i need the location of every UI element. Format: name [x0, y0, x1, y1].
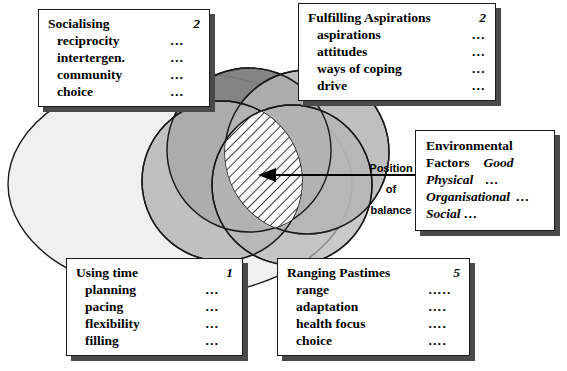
item-label: ways of coping [317, 60, 402, 77]
item-dots: …. [418, 332, 460, 349]
item-label: pacing [85, 298, 123, 315]
list-item: intertergen. … [48, 49, 200, 66]
list-item: Physical … [426, 171, 546, 188]
item-dots: … [516, 188, 530, 205]
item-label: flexibility [85, 315, 140, 332]
item-dots: … [485, 171, 499, 188]
environmental-rating: Good [483, 154, 513, 171]
callout-fulfilling-aspirations: Fulfilling Aspirations 2 aspirations … a… [298, 3, 496, 101]
list-item: drive … [308, 77, 486, 94]
item-dots: … [160, 83, 200, 100]
environmental-title-rest: Factors [426, 154, 469, 171]
aspirations-header: Fulfilling Aspirations 2 [308, 9, 486, 26]
item-dots: ….. [418, 281, 460, 298]
item-label: choice [296, 332, 332, 349]
socialising-items: reciprocity … intertergen. … community …… [48, 32, 200, 100]
list-item: attitudes … [308, 43, 486, 60]
diagram-canvas: Position of balance Socialising 2 recipr… [0, 0, 567, 371]
item-dots: … [160, 66, 200, 83]
item-label: aspirations [317, 26, 381, 43]
callout-socialising: Socialising 2 reciprocity … intertergen.… [38, 9, 210, 107]
aspirations-number: 2 [467, 9, 486, 26]
list-item: choice … [48, 83, 200, 100]
list-item: filling … [76, 332, 233, 349]
aspirations-title: Fulfilling Aspirations [308, 9, 431, 26]
item-label: Physical [426, 171, 473, 188]
list-item: range ….. [287, 281, 460, 298]
list-item: adaptation …. [287, 298, 460, 315]
item-label: community [57, 66, 122, 83]
item-dots: … [160, 49, 200, 66]
item-label: intertergen. [57, 49, 125, 66]
item-dots: … [195, 281, 233, 298]
item-label: reciprocity [57, 32, 119, 49]
callout-using-time: Using time 1 planning … pacing … flexibi… [66, 258, 243, 356]
item-dots: …. [418, 315, 460, 332]
item-label: adaptation [296, 298, 358, 315]
balance-line-2: of [362, 179, 420, 200]
balance-line-3: balance [362, 200, 420, 221]
callout-environmental-factors: Environmental Factors Good Physical … Or… [415, 130, 555, 231]
ranging-pastimes-items: range ….. adaptation …. health focus …. … [287, 281, 460, 349]
balance-line-1: Position [362, 158, 420, 179]
item-dots: … [462, 77, 487, 94]
using-time-items: planning … pacing … flexibility … fillin… [76, 281, 233, 349]
position-of-balance-label: Position of balance [362, 158, 420, 221]
item-dots: …. [418, 298, 460, 315]
list-item: flexibility … [76, 315, 233, 332]
socialising-header: Socialising 2 [48, 15, 200, 32]
item-label: drive [317, 77, 347, 94]
item-label: range [296, 281, 329, 298]
using-time-number: 1 [210, 264, 233, 281]
ranging-pastimes-header: Ranging Pastimes 5 [287, 264, 460, 281]
list-item: aspirations … [308, 26, 486, 43]
list-item: ways of coping … [308, 60, 486, 77]
list-item: health focus …. [287, 315, 460, 332]
item-label: filling [85, 332, 119, 349]
environmental-title-line-2: Factors Good [426, 154, 546, 171]
item-dots: … [195, 332, 233, 349]
socialising-title: Socialising [48, 15, 110, 32]
ranging-pastimes-number: 5 [435, 264, 460, 281]
list-item: Social … [426, 205, 546, 222]
item-dots: … [462, 26, 487, 43]
item-dots: … [195, 315, 233, 332]
list-item: pacing … [76, 298, 233, 315]
list-item: community … [48, 66, 200, 83]
using-time-header: Using time 1 [76, 264, 233, 281]
ranging-pastimes-title: Ranging Pastimes [287, 264, 390, 281]
item-label: attitudes [317, 43, 367, 60]
using-time-title: Using time [76, 264, 138, 281]
socialising-number: 2 [183, 15, 200, 32]
item-dots: … [462, 60, 487, 77]
item-label: Organisational [426, 188, 510, 205]
callout-ranging-pastimes: Ranging Pastimes 5 range ….. adaptation … [277, 258, 470, 356]
list-item: reciprocity … [48, 32, 200, 49]
item-label: choice [57, 83, 93, 100]
aspirations-items: aspirations … attitudes … ways of coping… [308, 26, 486, 94]
item-label: planning [85, 281, 136, 298]
list-item: choice …. [287, 332, 460, 349]
list-item: Organisational … [426, 188, 546, 205]
item-dots: … [160, 32, 200, 49]
environmental-title-line-1: Environmental [426, 137, 546, 154]
item-label: health focus [296, 315, 365, 332]
item-dots: … [462, 43, 487, 60]
item-dots: … [195, 298, 233, 315]
list-item: planning … [76, 281, 233, 298]
